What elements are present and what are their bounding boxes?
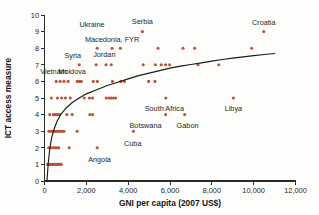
y-tick-label: 0 (35, 177, 39, 186)
data-point (110, 63, 113, 66)
data-point (80, 80, 83, 83)
y-tick-label: 2 (35, 144, 39, 153)
x-tick-label: 4,000 (119, 186, 138, 195)
x-axis-ticks: 02,0004,0006,0008,00010,00012,000 (42, 181, 306, 195)
country-annotation-label: Vietnam (40, 67, 67, 76)
data-point (141, 30, 144, 33)
country-annotations-layer: CroatiaSerbiaMacedonia, FYRUkraineJordan… (40, 17, 276, 164)
x-tick-label: 10,000 (242, 186, 265, 195)
y-tick-label: 7 (35, 61, 39, 70)
y-tick-label: 4 (35, 110, 39, 119)
data-point (64, 96, 67, 99)
country-annotation-label: Cuba (124, 139, 142, 148)
x-tick-label: 12,000 (284, 186, 307, 195)
country-annotation-label: Botswana (130, 121, 163, 130)
data-point (62, 130, 65, 133)
data-point (181, 47, 184, 50)
data-point (48, 113, 51, 116)
data-point (88, 96, 91, 99)
data-point (60, 96, 63, 99)
data-point (59, 80, 62, 83)
data-point (154, 63, 157, 66)
chart-container: 02,0004,0006,0008,00010,00012,000 012345… (0, 0, 319, 215)
data-point (91, 113, 94, 116)
data-point (95, 63, 98, 66)
y-tick-label: 9 (35, 27, 39, 36)
data-point (104, 63, 107, 66)
data-point (57, 146, 60, 149)
data-point (69, 96, 72, 99)
data-point (157, 47, 160, 50)
x-axis-title: GNI per capita (2007 US$) (119, 198, 221, 208)
y-tick-label: 5 (35, 94, 39, 103)
country-annotation-label: Syria (64, 51, 82, 60)
data-point (78, 63, 81, 66)
data-point (232, 96, 235, 99)
data-point (68, 146, 71, 149)
data-point (91, 96, 94, 99)
country-annotation-label: Gabon (177, 121, 199, 130)
country-annotation-label: South Africa (145, 104, 185, 113)
data-point (96, 80, 99, 83)
x-tick-label: 2,000 (77, 186, 96, 195)
data-point (193, 47, 196, 50)
data-point (114, 96, 117, 99)
data-point (183, 113, 186, 116)
data-point (60, 163, 63, 166)
data-point (76, 130, 79, 133)
country-annotation-label: Serbia (132, 17, 154, 26)
y-tick-label: 6 (35, 77, 39, 86)
data-point (119, 47, 122, 50)
data-point (164, 113, 167, 116)
data-point (50, 96, 53, 99)
x-tick-label: 8,000 (203, 186, 222, 195)
data-point (147, 80, 150, 83)
y-axis-title: ICT access measure (3, 57, 13, 138)
data-point (67, 80, 70, 83)
data-point (153, 80, 156, 83)
country-annotation-label: Croatia (252, 18, 276, 27)
data-point (168, 63, 171, 66)
scatter-plot: 02,0004,0006,0008,00010,00012,000 012345… (0, 0, 319, 215)
data-point (111, 80, 114, 83)
data-point (96, 146, 99, 149)
data-point (164, 96, 167, 99)
x-tick-label: 0 (42, 186, 46, 195)
data-point (88, 113, 91, 116)
data-point (71, 113, 74, 116)
data-point (105, 96, 108, 99)
y-tick-label: 3 (35, 127, 39, 136)
country-annotation-label: Ukraine (79, 20, 104, 29)
data-point (164, 63, 167, 66)
plot-axes (45, 15, 296, 181)
data-point (65, 113, 68, 116)
y-tick-label: 10 (31, 11, 39, 20)
data-point (142, 63, 145, 66)
y-tick-label: 1 (35, 160, 39, 169)
data-point (62, 80, 65, 83)
x-tick-label: 6,000 (161, 186, 180, 195)
data-point (111, 47, 114, 50)
y-axis-ticks: 012345678910 (31, 11, 45, 186)
country-annotation-label: Macedonia, FYR (85, 35, 139, 44)
country-annotation-label: Jordan (93, 50, 115, 59)
data-point (83, 96, 86, 99)
data-point (56, 96, 59, 99)
data-point (55, 80, 58, 83)
y-tick-label: 8 (35, 44, 39, 53)
data-point (96, 47, 99, 50)
data-point (262, 30, 265, 33)
data-point (160, 63, 163, 66)
country-annotation-label: Angola (88, 155, 112, 164)
data-point (250, 47, 253, 50)
data-point (217, 63, 220, 66)
country-annotation-label: Libya (225, 104, 243, 113)
data-point (92, 80, 95, 83)
